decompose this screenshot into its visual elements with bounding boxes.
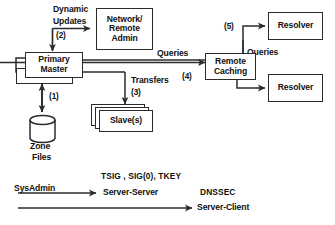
dns-architecture-diagram: Network/ Remote Admin Master Primary Mas… xyxy=(0,0,335,225)
label-step-3: (3) xyxy=(131,88,141,98)
label-step-1: (1) xyxy=(49,92,59,102)
node-resolver-bottom-label: Resolver xyxy=(278,83,314,93)
node-primary-master-line2: Master xyxy=(40,65,67,75)
label-step-2: (2) xyxy=(56,31,66,41)
node-resolver-bottom[interactable]: Resolver xyxy=(268,74,323,102)
node-resolver-top[interactable]: Resolver xyxy=(268,12,323,40)
label-step-4: (4) xyxy=(182,72,192,82)
node-slaves[interactable]: Slave(s) xyxy=(99,110,153,132)
legend-server-server-title: TSIG , SIG(0), TKEY xyxy=(101,171,181,181)
label-zone-files-line1: Zone xyxy=(30,142,50,152)
legend-server-server-sub: Server-Server xyxy=(103,187,158,197)
node-network-remote-admin[interactable]: Network/ Remote Admin xyxy=(96,8,153,50)
label-transfers: Transfers xyxy=(131,76,169,86)
label-dynamic-updates-line1: Dynamic xyxy=(53,5,88,15)
legend-sysadmin-label: SysAdmin xyxy=(14,183,55,193)
node-slaves-label: Slave(s) xyxy=(110,116,142,126)
label-dynamic-updates-line2: Updates xyxy=(53,17,86,27)
node-remote-caching[interactable]: Remote Caching xyxy=(205,53,256,80)
node-network-remote-admin-line3: Admin xyxy=(111,34,137,44)
node-remote-caching-line2: Caching xyxy=(214,67,247,77)
zone-files-cylinder xyxy=(30,115,55,142)
label-step-5: (5) xyxy=(224,22,234,32)
node-resolver-top-label: Resolver xyxy=(278,21,314,31)
legend-server-client-title: DNSSEC xyxy=(200,187,236,197)
legend-server-client-sub: Server-Client xyxy=(197,202,249,212)
label-queries-left: Queries xyxy=(157,49,188,59)
label-zone-files-line2: Files xyxy=(32,153,51,163)
node-primary-master[interactable]: Primary Master xyxy=(25,52,83,78)
